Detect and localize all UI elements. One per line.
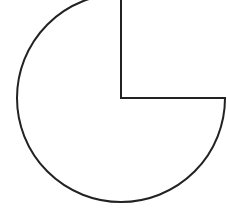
- three-quarter-circle-shape: [17, 0, 225, 202]
- diagram-canvas: [0, 0, 227, 210]
